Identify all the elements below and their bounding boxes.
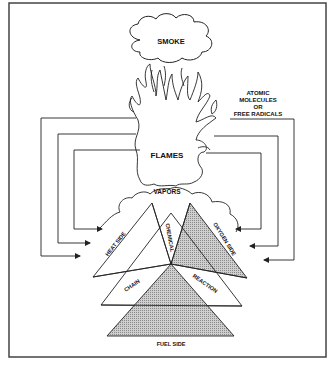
right-arrow-outer (230, 119, 294, 260)
right-arrow-middle (214, 136, 278, 246)
fuel-side-triangle (107, 264, 234, 336)
svg-text:MOLECULES: MOLECULES (239, 97, 277, 103)
svg-text:FREE RADICALS: FREE RADICALS (234, 111, 283, 117)
smoke-cloud: SMOKE (130, 14, 212, 63)
free-radicals-label: ATOMIC MOLECULES OR FREE RADICALS (234, 90, 283, 117)
smoke-label: SMOKE (157, 37, 185, 46)
oxygen-side-triangle (171, 203, 247, 278)
right-arrow-inner (206, 153, 261, 229)
flames-label: FLAMES (151, 151, 185, 160)
fuel-side-label: FUEL SIDE (157, 341, 186, 347)
svg-text:OR: OR (254, 104, 264, 110)
fire-diagram: SMOKE FLAMES VAPORS ATOMIC MOLECULES OR … (0, 0, 333, 366)
right-feedback-arrows (206, 119, 294, 260)
left-arrow-inner (74, 150, 140, 229)
vapors-label: VAPORS (154, 188, 182, 195)
chain-label: CHAIN (123, 278, 141, 293)
reaction-label: REACTION (192, 273, 219, 294)
flames: FLAMES (129, 64, 217, 186)
svg-text:ATOMIC: ATOMIC (246, 90, 270, 96)
